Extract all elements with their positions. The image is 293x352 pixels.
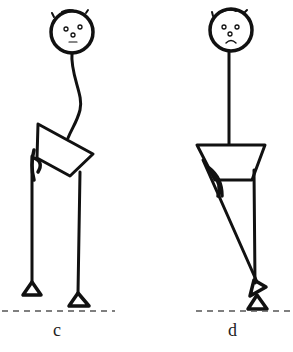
stick-figure-diagram (0, 0, 293, 352)
mouth-d (226, 41, 236, 44)
label-c: c (53, 320, 61, 341)
leg-straight-d (254, 170, 255, 283)
pelvis-c (37, 124, 93, 176)
head-c (51, 11, 93, 53)
eye-right-c (78, 25, 82, 29)
leg-right-c (78, 172, 80, 293)
eye-left-c (64, 27, 68, 31)
figure-d (197, 9, 267, 309)
figure-c (23, 10, 93, 306)
spine-c (68, 53, 81, 138)
nose-c (71, 33, 75, 37)
label-d: d (228, 320, 237, 341)
head-d (210, 9, 252, 51)
eye-right-d (235, 25, 239, 29)
foot-left-c (23, 282, 41, 295)
foot-right-c (69, 293, 89, 306)
nose-d (228, 32, 232, 36)
eye-left-d (222, 25, 226, 29)
